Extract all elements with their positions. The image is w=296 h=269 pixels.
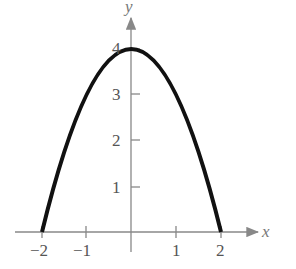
- x-tick-label: 2: [216, 241, 225, 260]
- y-tick-label: 2: [112, 131, 121, 150]
- y-tick-label: 1: [112, 178, 121, 197]
- y-tick-label: 3: [112, 85, 121, 104]
- x-tick-label: 1: [172, 241, 181, 260]
- parabola-chart: −2 −1 1 2 1 2 3 4 x y: [0, 0, 296, 269]
- y-tick-label: 4: [112, 39, 121, 58]
- y-ticks: [124, 49, 140, 187]
- x-tick-label: −2: [30, 241, 48, 260]
- x-tick-label: −1: [73, 241, 91, 260]
- y-axis-label: y: [123, 0, 133, 16]
- x-axis-label: x: [261, 222, 270, 241]
